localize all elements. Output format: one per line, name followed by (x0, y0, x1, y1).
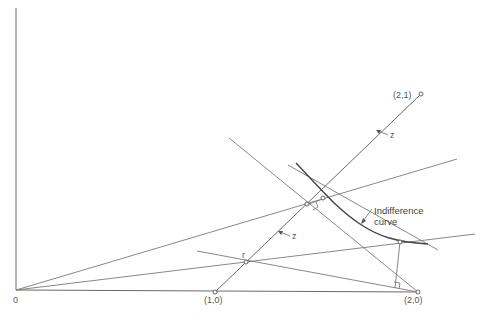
curve-label-arrow (363, 209, 372, 221)
label-point-20: (2,0) (404, 295, 423, 305)
perp-lower (395, 242, 400, 288)
label-z-lower: z (292, 231, 297, 241)
point-z-intersect (305, 202, 309, 206)
label-origin: 0 (13, 295, 18, 305)
point-21 (419, 92, 423, 96)
label-r: r (242, 250, 245, 260)
line-from-20-through-r (197, 251, 418, 292)
label-point-21: (2,1) (393, 90, 412, 100)
point-r (244, 260, 248, 264)
label-curve: curve (374, 216, 397, 227)
point-10 (213, 290, 217, 294)
diagram-canvas: 0 (1,0) (2,0) (2,1) r z z Indifference c… (0, 0, 483, 320)
point-curve-lower (398, 240, 402, 244)
right-angle-upper (313, 202, 318, 210)
label-point-10: (1,0) (204, 295, 223, 305)
indifference-curve (296, 163, 428, 244)
label-indifference: Indifference (374, 205, 423, 216)
label-z-upper: z (390, 130, 395, 140)
point-20 (416, 290, 420, 294)
arrow-head-icon (361, 218, 366, 224)
point-tangency (321, 196, 325, 200)
